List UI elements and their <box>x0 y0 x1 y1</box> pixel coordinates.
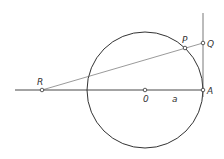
points-group: R0APQ <box>37 35 214 104</box>
point-P-label: P <box>182 35 188 45</box>
segment-label-a: a <box>172 94 178 104</box>
point-R-label: R <box>37 77 43 87</box>
point-P-marker <box>183 46 187 50</box>
diagram-canvas: R0APQ a <box>0 0 224 159</box>
point-R-marker <box>40 88 44 92</box>
point-A-marker <box>201 88 205 92</box>
point-O-marker <box>143 88 147 92</box>
point-O-label: 0 <box>143 94 149 104</box>
point-Q-marker <box>201 41 205 45</box>
secant-line-RQ <box>42 43 203 90</box>
point-A-label: A <box>206 86 213 96</box>
point-Q-label: Q <box>207 39 214 49</box>
